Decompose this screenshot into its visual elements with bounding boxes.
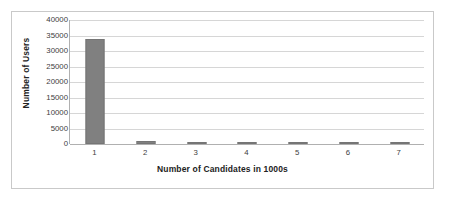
bar[interactable]	[187, 142, 206, 144]
y-axis-tick-label: 0	[30, 140, 68, 148]
y-axis-tick-label: 5000	[30, 125, 68, 133]
x-axis-tick-label: 5	[295, 148, 299, 157]
bar[interactable]	[238, 142, 257, 144]
bar[interactable]	[339, 142, 358, 144]
bar[interactable]	[137, 141, 156, 144]
bar-slot	[324, 20, 375, 144]
bar-slot	[121, 20, 172, 144]
y-axis-tick-label: 10000	[30, 109, 68, 117]
x-axis-tick-label: 6	[346, 148, 350, 157]
x-axis-tick-label: 2	[143, 148, 147, 157]
y-axis-tick-label: 20000	[30, 78, 68, 86]
x-axis-title: Number of Candidates in 1000s	[12, 164, 433, 174]
y-axis-tick-label: 40000	[30, 16, 68, 24]
chart-container: Number of Users 050001000015000200002500…	[11, 11, 434, 189]
bar-slot	[222, 20, 273, 144]
bar[interactable]	[390, 142, 409, 144]
x-axis-tick-label: 1	[92, 148, 96, 157]
y-axis-tick-labels: 0500010000150002000025000300003500040000	[30, 20, 68, 144]
bar-slot	[70, 20, 121, 144]
x-axis-tick-label: 4	[244, 148, 248, 157]
bar-series	[70, 20, 424, 144]
y-axis-tick-label: 25000	[30, 63, 68, 71]
x-axis-tick-labels: 1234567	[69, 148, 424, 162]
bar[interactable]	[289, 142, 308, 144]
bar-slot	[171, 20, 222, 144]
bar-slot	[374, 20, 425, 144]
x-axis-tick-label: 3	[194, 148, 198, 157]
y-axis-tick-label: 30000	[30, 47, 68, 55]
x-axis-tick-label: 7	[396, 148, 400, 157]
bar-slot	[273, 20, 324, 144]
plot-area	[69, 20, 424, 144]
axis-baseline	[70, 144, 424, 145]
y-axis-tick-label: 15000	[30, 94, 68, 102]
bar[interactable]	[86, 39, 105, 144]
y-axis-tick-label: 35000	[30, 32, 68, 40]
